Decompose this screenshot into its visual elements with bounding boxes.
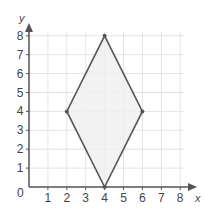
- y-axis-arrow-icon: [25, 23, 33, 32]
- x-axis-arrow-icon: [188, 183, 197, 191]
- coordinate-plane: 1234567812345678 x y 0: [0, 0, 205, 212]
- x-tick-label: 7: [158, 191, 165, 205]
- y-tick-label: 8: [17, 29, 24, 43]
- y-axis-label: y: [18, 12, 26, 24]
- y-tick-label: 7: [17, 48, 24, 62]
- x-tick-label: 5: [120, 191, 127, 205]
- y-tick-label: 4: [17, 104, 24, 118]
- x-tick-label: 2: [63, 191, 70, 205]
- y-tick-label: 1: [17, 161, 24, 175]
- y-tick-label: 6: [17, 67, 24, 81]
- y-tick-label: 3: [17, 123, 24, 137]
- y-tick-label: 2: [17, 142, 24, 156]
- y-tick-label: 5: [17, 86, 24, 100]
- x-tick-label: 1: [45, 191, 52, 205]
- origin-label: 0: [17, 186, 24, 200]
- x-axis-label: x: [194, 192, 201, 204]
- x-tick-label: 4: [101, 191, 108, 205]
- x-tick-label: 3: [82, 191, 89, 205]
- x-tick-label: 8: [177, 191, 184, 205]
- rhombus-shape: [67, 36, 143, 187]
- x-tick-label: 6: [139, 191, 146, 205]
- vertex-point: [140, 109, 144, 113]
- vertex-point: [103, 34, 107, 38]
- vertex-point: [65, 109, 69, 113]
